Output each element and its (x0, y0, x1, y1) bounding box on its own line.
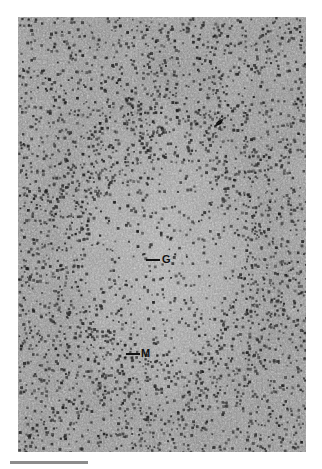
germinal-center-label: G (162, 254, 171, 265)
arrowhead-marker (212, 115, 226, 129)
figure: G M (0, 0, 322, 469)
mantle-zone-label: M (141, 348, 150, 359)
micrograph-image (18, 17, 306, 452)
scale-bar (10, 461, 88, 464)
g-pointer-line (146, 259, 160, 261)
m-pointer-line (126, 353, 140, 355)
tissue-texture (18, 17, 306, 452)
